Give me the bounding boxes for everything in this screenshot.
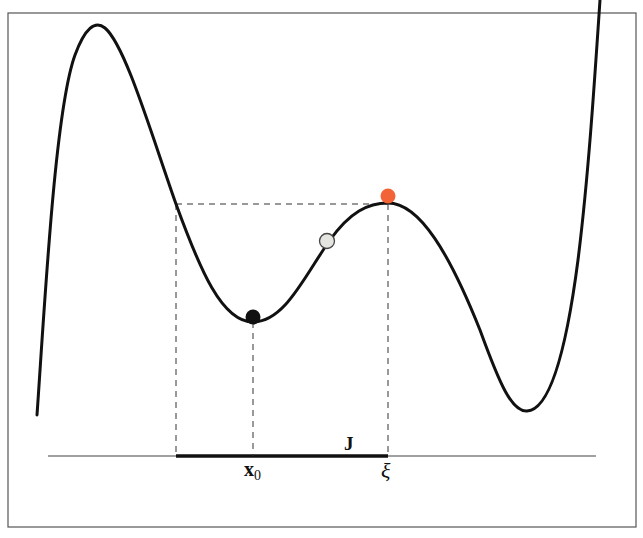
potential-curve <box>37 0 600 415</box>
ball-at-maximum <box>381 189 396 204</box>
potential-curve-diagram: J x0 ξ <box>0 0 643 538</box>
xi-label: ξ <box>381 458 391 483</box>
x0-label: x0 <box>244 458 261 483</box>
x0-label-subscript: 0 <box>254 468 261 483</box>
x0-label-base: x <box>244 458 254 480</box>
ball-at-minimum <box>246 310 261 325</box>
ball-on-slope <box>320 234 335 249</box>
interval-label: J <box>344 433 354 454</box>
figure-frame <box>8 13 636 527</box>
